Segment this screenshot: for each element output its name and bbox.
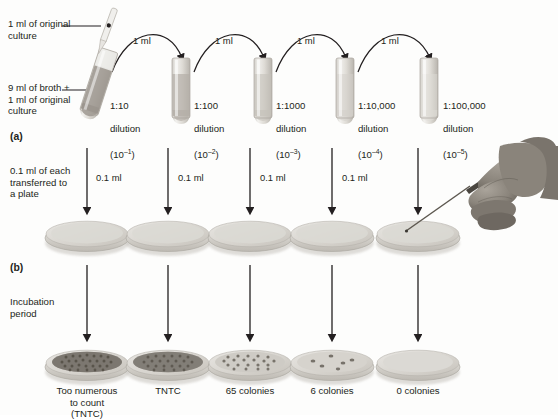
arc-label-2: 1 ml — [215, 35, 233, 46]
result-plate-5 — [376, 350, 460, 385]
drop-label-3: 0.1 ml — [260, 172, 286, 183]
drop-label-4: 0.1 ml — [342, 172, 368, 183]
result-plate-2 — [126, 350, 210, 385]
arc-label-3: 1 ml — [297, 35, 315, 46]
result-plate-1 — [45, 350, 129, 385]
tube-exponent-2: (10–2) — [194, 149, 219, 160]
empty-plate-4 — [290, 221, 374, 256]
tube-dilution-word-4: dilution — [358, 123, 388, 134]
result-label-4: 6 colonies — [282, 385, 382, 397]
incubation-arrows — [87, 265, 418, 338]
tube-label-2: 1:100 dilution (10–2) — [194, 88, 224, 161]
tube-ratio-3: 1:1000 — [276, 100, 305, 111]
plate-row-empty — [45, 221, 460, 256]
tube-dilution-word-3: dilution — [276, 123, 306, 134]
empty-plate-3 — [208, 221, 292, 256]
drop-label-1: 0.1 ml — [96, 172, 122, 183]
pipette-icon — [96, 7, 118, 54]
tube-label-3: 1:1000 dilution (10–3) — [276, 88, 306, 161]
tube-exponent-4: (10–4) — [358, 149, 383, 160]
test-tube-3 — [254, 58, 272, 124]
test-tube-5 — [420, 58, 438, 124]
annotation-broth-plus-culture: 9 ml of broth + 1 ml of original culture — [8, 82, 70, 117]
tube-label-1: 1:10 dilution (10–1) — [110, 88, 140, 161]
tube-exponent-3: (10–3) — [276, 149, 301, 160]
tube-dilution-word-2: dilution — [194, 123, 224, 134]
tube-label-4: 1:10,000 dilution (10–4) — [358, 88, 395, 161]
tube-dilution-word-1: dilution — [110, 123, 140, 134]
arc-label-1: 1 ml — [133, 35, 151, 46]
tube-exponent-1: (10–1) — [110, 149, 135, 160]
test-tube-2 — [172, 58, 190, 124]
annotation-incubation-note: Incubation period — [10, 296, 54, 319]
empty-plate-2 — [126, 221, 210, 256]
tube-ratio-5: 1:100,000 — [443, 100, 486, 111]
result-label-5: 0 colonies — [368, 385, 468, 397]
annotation-transfer-note: 0.1 ml of each transferred to a plate — [10, 165, 70, 200]
tube-ratio-4: 1:10,000 — [358, 100, 395, 111]
tube-ratio-2: 1:100 — [194, 100, 218, 111]
tube-dilution-word-5: dilution — [443, 123, 473, 134]
tube-label-5: 1:100,000 dilution (10–5) — [443, 88, 486, 161]
result-plate-3 — [208, 350, 292, 385]
empty-plate-5 — [376, 221, 460, 256]
tube-exponent-5: (10–5) — [443, 149, 468, 160]
panel-label-a: (a) — [10, 131, 23, 142]
plate-row-results — [45, 350, 460, 385]
tube-ratio-1: 1:10 — [110, 100, 129, 111]
arc-label-4: 1 ml — [381, 35, 399, 46]
result-plate-4 — [290, 350, 374, 385]
annotation-original-culture: 1 ml of original culture — [8, 18, 70, 41]
test-tube-4 — [336, 58, 354, 124]
drop-label-2: 0.1 ml — [178, 172, 204, 183]
empty-plate-1 — [45, 221, 129, 256]
panel-label-b: (b) — [10, 262, 23, 273]
